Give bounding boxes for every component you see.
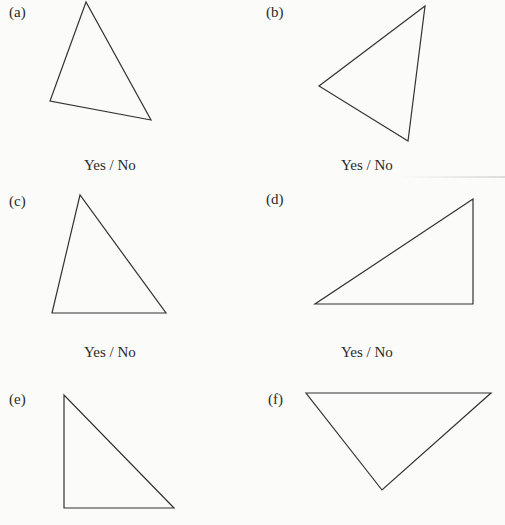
label-b: (b): [266, 5, 284, 20]
label-d: (d): [266, 192, 284, 207]
triangle-f: [306, 393, 491, 490]
answer-choice-a[interactable]: Yes / No: [84, 158, 136, 173]
triangle-d: [315, 199, 473, 304]
worksheet-page: (a) (b) (c) (d) (e) (f) Yes / No Yes / N…: [0, 0, 505, 525]
triangle-c: [52, 195, 166, 313]
label-a: (a): [9, 5, 26, 20]
scan-artifact: [400, 176, 505, 178]
answer-choice-b[interactable]: Yes / No: [341, 158, 393, 173]
label-e: (e): [9, 392, 26, 407]
triangle-a: [50, 2, 151, 120]
answer-choice-c[interactable]: Yes / No: [84, 345, 136, 360]
label-c: (c): [9, 194, 26, 209]
label-f: (f): [268, 392, 283, 407]
triangle-b: [319, 6, 425, 141]
triangle-figures: [0, 0, 505, 525]
triangle-e: [64, 395, 174, 508]
answer-choice-d[interactable]: Yes / No: [341, 345, 393, 360]
